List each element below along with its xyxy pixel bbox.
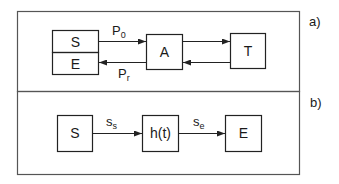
label-ss-sub: s (113, 121, 118, 131)
panel-a-label: a) (309, 15, 321, 28)
label-p0: P0 (112, 24, 126, 37)
box-e-b-text: E (225, 126, 262, 140)
box-e-a-text: E (52, 57, 99, 71)
box-t-text: T (230, 44, 266, 58)
label-p0-symbol: P (112, 23, 121, 38)
label-pr-sub: r (127, 73, 130, 83)
box-a-text: A (146, 45, 183, 59)
label-se-sub: e (200, 121, 205, 131)
label-ss-symbol: s (106, 114, 113, 129)
label-ss: ss (106, 115, 117, 128)
box-s-b-text: S (57, 126, 93, 140)
diagram-canvas (0, 0, 339, 184)
label-p0-sub: 0 (121, 30, 126, 40)
box-s-a-text: S (52, 35, 99, 49)
label-se-symbol: s (193, 114, 200, 129)
panel-b-label: b) (310, 96, 322, 109)
label-se: se (193, 115, 205, 128)
label-pr: Pr (118, 67, 130, 80)
box-h-text: h(t) (142, 126, 179, 140)
label-pr-symbol: P (118, 66, 127, 81)
